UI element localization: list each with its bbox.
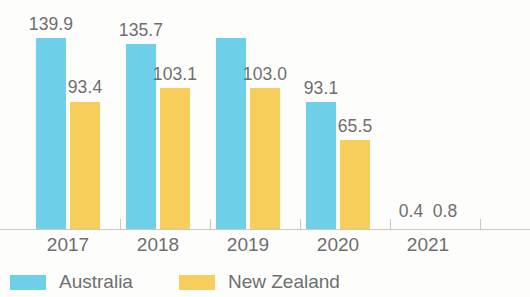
bar-value-label-new-zealand-2019: 103.0 — [237, 64, 293, 85]
bar-value-label-new-zealand-2018: 103.1 — [147, 64, 203, 85]
axis-tick — [480, 219, 481, 229]
legend-label-australia: Australia — [59, 271, 133, 293]
legend-label-new-zealand: New Zealand — [228, 271, 340, 293]
bar-value-label-australia-2018: 135.7 — [113, 20, 169, 41]
legend-swatch-australia-icon — [10, 275, 46, 290]
chart-legend: Australia New Zealand — [0, 268, 530, 296]
legend-swatch-new-zealand-icon — [179, 275, 215, 290]
bar-australia-2017 — [36, 38, 66, 229]
x-axis-label-2020: 2020 — [303, 234, 373, 256]
bar-new-zealand-2020 — [340, 140, 370, 229]
bar-new-zealand-2019 — [250, 88, 280, 229]
plot-area — [0, 0, 530, 232]
axis-tick — [120, 219, 121, 229]
axis-tick — [300, 219, 301, 229]
bar-chart: 20172018201920202021 Australia New Zeala… — [0, 0, 530, 297]
x-axis-label-2019: 2019 — [213, 234, 283, 256]
x-axis-label-2021: 2021 — [393, 234, 463, 256]
x-axis-line — [0, 229, 530, 230]
bar-new-zealand-2018 — [160, 88, 190, 229]
bar-value-label-new-zealand-2021: 0.8 — [417, 201, 473, 222]
bar-value-label-australia-2017: 139.9 — [23, 14, 79, 35]
bar-new-zealand-2017 — [70, 102, 100, 230]
bar-value-label-new-zealand-2017: 93.4 — [57, 77, 113, 98]
legend-item-australia: Australia — [10, 271, 133, 293]
axis-tick — [210, 219, 211, 229]
x-axis-label-2017: 2017 — [33, 234, 103, 256]
legend-item-new-zealand: New Zealand — [179, 271, 340, 293]
bar-value-label-new-zealand-2020: 65.5 — [327, 116, 383, 137]
x-axis-category-labels: 20172018201920202021 — [0, 234, 530, 264]
x-axis-label-2018: 2018 — [123, 234, 193, 256]
bar-value-label-australia-2020: 93.1 — [293, 78, 349, 99]
